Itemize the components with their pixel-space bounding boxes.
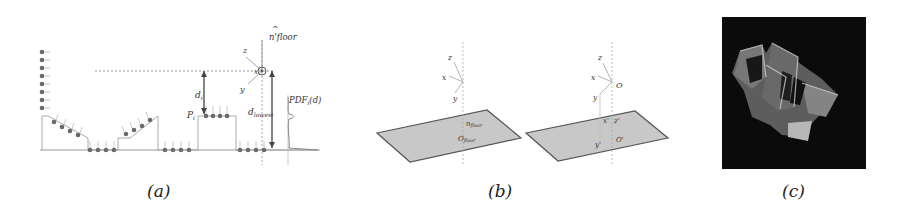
svg-text:y': y' [594,141,601,149]
normal-label: n'floor [269,32,298,42]
svg-text:y: y [452,94,458,103]
svg-text:x: x [442,73,447,82]
panel-b: z x y nfloor Ofloor z x y O x' z' y' O' … [360,0,705,219]
caption-b: (b) [488,181,512,201]
floor-plane-diagram: z x y nfloor Ofloor z x y O x' z' y' O' [360,0,705,180]
caption-a: (a) [147,181,170,201]
origin-prime-label: O' [616,136,624,144]
distance-lowest-label: dlowest [248,107,274,118]
point-cloud-image [722,17,866,169]
svg-text:y: y [592,93,598,102]
axis-x-label: x [254,68,258,76]
origin-floor-label: Ofloor [458,135,476,144]
normal-floor-label: nfloor [466,120,483,129]
svg-text:^: ^ [272,24,279,33]
svg-text:z: z [447,53,452,62]
svg-text:x': x' [603,117,609,125]
panel-a: n'floor ^ z x y di Pi dlowest PDFi(d) (a… [0,0,340,219]
origin-label: O [616,81,623,90]
point-i-label: Pi [186,110,195,121]
axis-z-label: z [242,46,248,55]
distance-i-label: di [195,90,203,101]
pdf-label: PDFi(d) [288,95,321,106]
svg-text:z': z' [613,117,620,125]
floor-plane-left [377,110,521,162]
floor-detection-diagram: n'floor ^ z x y di Pi dlowest PDFi(d) [0,0,340,180]
wall-points [40,50,45,111]
axis-y-label: y [239,85,245,94]
floor-plane-right [526,111,668,161]
svg-text:x: x [591,73,596,82]
svg-text:z: z [597,53,602,62]
caption-c: (c) [782,181,805,201]
